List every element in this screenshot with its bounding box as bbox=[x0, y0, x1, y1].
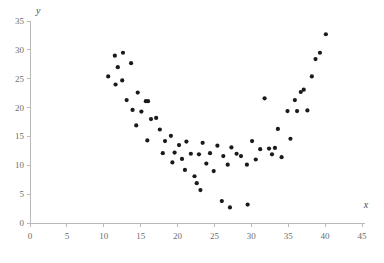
x-tick-label: 15 bbox=[136, 231, 146, 241]
data-point bbox=[239, 154, 243, 158]
data-point bbox=[204, 161, 208, 165]
scatter-plot-figure: 05101520253035 051015202530354045 y x bbox=[0, 0, 384, 263]
data-point bbox=[169, 134, 173, 138]
data-point bbox=[276, 127, 280, 131]
data-point bbox=[173, 150, 177, 154]
x-axis: 051015202530354045 bbox=[28, 223, 367, 241]
data-point bbox=[163, 139, 167, 143]
data-point bbox=[139, 110, 143, 114]
data-points-layer bbox=[106, 32, 328, 209]
data-point bbox=[170, 160, 174, 164]
data-point bbox=[161, 151, 165, 155]
y-tick-label: 25 bbox=[15, 74, 25, 84]
data-point bbox=[192, 174, 196, 178]
data-point bbox=[285, 109, 289, 113]
data-point bbox=[189, 152, 193, 156]
y-tick-label: 15 bbox=[15, 131, 25, 141]
data-point bbox=[279, 155, 283, 159]
data-point bbox=[113, 54, 117, 58]
data-point bbox=[226, 163, 230, 167]
data-point bbox=[215, 144, 219, 148]
data-point bbox=[125, 98, 129, 102]
data-point bbox=[212, 169, 216, 173]
data-point bbox=[158, 127, 162, 131]
data-point bbox=[302, 88, 306, 92]
x-tick-label: 30 bbox=[247, 231, 257, 241]
data-point bbox=[184, 140, 188, 144]
data-point bbox=[197, 152, 201, 156]
x-tick-label: 40 bbox=[321, 231, 331, 241]
y-axis-title: y bbox=[35, 5, 41, 16]
data-point bbox=[183, 168, 187, 172]
data-point bbox=[136, 90, 140, 94]
data-point bbox=[145, 138, 149, 142]
data-point bbox=[234, 152, 238, 156]
x-tick-label: 20 bbox=[173, 231, 183, 241]
y-tick-label: 30 bbox=[15, 45, 25, 55]
data-point bbox=[221, 154, 225, 158]
y-tick-label: 5 bbox=[20, 189, 25, 199]
data-point bbox=[106, 74, 110, 78]
data-point bbox=[313, 57, 317, 61]
data-point bbox=[246, 202, 250, 206]
data-point bbox=[208, 151, 212, 155]
data-point bbox=[130, 108, 134, 112]
data-point bbox=[146, 99, 150, 103]
data-point bbox=[295, 109, 299, 113]
data-point bbox=[293, 98, 297, 102]
x-tick-label: 35 bbox=[284, 231, 294, 241]
data-point bbox=[250, 139, 254, 143]
data-point bbox=[149, 117, 153, 121]
data-point bbox=[318, 51, 322, 55]
data-point bbox=[116, 65, 120, 69]
data-point bbox=[134, 123, 138, 127]
data-point bbox=[195, 181, 199, 185]
data-point bbox=[113, 82, 117, 86]
data-point bbox=[120, 78, 124, 82]
data-point bbox=[273, 146, 277, 150]
data-point bbox=[288, 137, 292, 141]
y-tick-label: 20 bbox=[15, 103, 25, 113]
data-point bbox=[180, 157, 184, 161]
x-tick-label: 25 bbox=[210, 231, 220, 241]
data-point bbox=[177, 143, 181, 147]
data-point bbox=[198, 188, 202, 192]
y-tick-label: 10 bbox=[15, 160, 25, 170]
x-tick-label: 5 bbox=[65, 231, 70, 241]
data-point bbox=[254, 157, 258, 161]
data-point bbox=[201, 141, 205, 145]
data-point bbox=[245, 163, 249, 167]
data-point bbox=[270, 152, 274, 156]
data-point bbox=[121, 51, 125, 55]
data-point bbox=[263, 96, 267, 100]
data-point bbox=[310, 74, 314, 78]
data-point bbox=[229, 145, 233, 149]
x-tick-label: 10 bbox=[99, 231, 109, 241]
data-point bbox=[324, 32, 328, 36]
y-axis: 05101520253035 bbox=[15, 16, 30, 228]
data-point bbox=[228, 205, 232, 209]
y-tick-label: 0 bbox=[20, 218, 25, 228]
data-point bbox=[220, 199, 224, 203]
data-point bbox=[267, 146, 271, 150]
x-tick-label: 0 bbox=[28, 231, 33, 241]
x-tick-label: 45 bbox=[358, 231, 368, 241]
y-tick-label: 35 bbox=[15, 16, 25, 26]
data-point bbox=[258, 147, 262, 151]
data-point bbox=[305, 108, 309, 112]
chart-canvas: 05101520253035 051015202530354045 y x bbox=[0, 0, 384, 263]
x-axis-title: x bbox=[363, 199, 369, 210]
data-point bbox=[129, 61, 133, 65]
data-point bbox=[154, 116, 158, 120]
